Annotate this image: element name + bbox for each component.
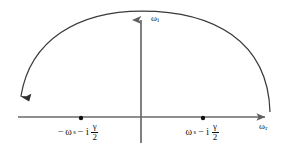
imaginary-axis-subscript: i bbox=[157, 16, 159, 23]
real-axis-subscript: r bbox=[265, 124, 267, 131]
pole-right-fraction-denominator: 2 bbox=[212, 133, 219, 143]
pole-left-fraction-denominator: 2 bbox=[91, 133, 98, 143]
pole-right-imaginary-unit: i bbox=[206, 127, 209, 137]
pole-right-omega: ω bbox=[186, 127, 193, 137]
complex-plane-contour-figure: ωi ωr −ωs − i γ 2 ωs − i γ 2 bbox=[0, 0, 284, 149]
pole-left-operator: − bbox=[78, 127, 84, 137]
pole-left-fraction-numerator: γ bbox=[92, 122, 98, 132]
pole-left-sign: − bbox=[58, 127, 64, 137]
pole-left-label: −ωs − i γ 2 bbox=[58, 122, 98, 142]
pole-left-dot bbox=[79, 116, 83, 120]
pole-left-imaginary-unit: i bbox=[86, 127, 89, 137]
figure-canvas bbox=[0, 0, 284, 149]
pole-right-fraction-numerator: γ bbox=[212, 122, 218, 132]
real-axis-label: ωr bbox=[259, 122, 267, 132]
contour-arc bbox=[21, 11, 270, 112]
pole-right-label: ωs − i γ 2 bbox=[184, 122, 219, 142]
pole-right-operator: − bbox=[198, 127, 204, 137]
imaginary-axis-label: ωi bbox=[151, 14, 159, 24]
pole-left-omega-subscript: s bbox=[73, 129, 76, 136]
pole-right-fraction: γ 2 bbox=[212, 122, 219, 142]
pole-right-omega-subscript: s bbox=[194, 129, 197, 136]
pole-left-omega: ω bbox=[65, 127, 72, 137]
pole-left-fraction: γ 2 bbox=[91, 122, 98, 142]
pole-right-dot bbox=[201, 116, 205, 120]
